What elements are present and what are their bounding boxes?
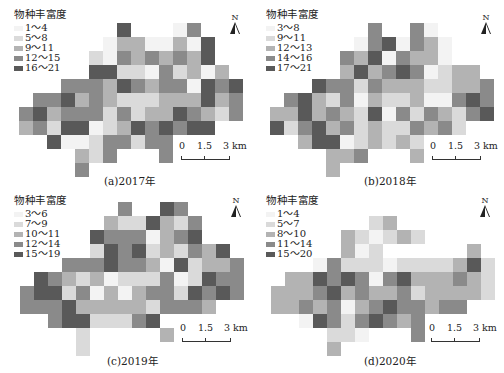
grid-cell xyxy=(117,51,131,65)
grid-cell xyxy=(34,272,48,286)
grid-cell xyxy=(438,121,452,135)
grid-cell xyxy=(354,79,368,93)
grid-cell xyxy=(467,272,481,286)
grid-cell xyxy=(62,272,76,286)
grid-cell xyxy=(481,272,495,286)
grid-cell xyxy=(48,286,62,300)
grid-cell xyxy=(187,107,201,121)
north-arrow-icon: N xyxy=(478,196,492,217)
grid-cell xyxy=(146,244,160,258)
grid-cell xyxy=(19,121,33,135)
caption: (d)2020年 xyxy=(364,353,416,368)
grid-cell xyxy=(75,121,89,135)
grid-cell xyxy=(131,51,145,65)
grid-cell xyxy=(118,202,132,216)
grid-cell xyxy=(397,300,411,314)
grid-cell xyxy=(313,286,327,300)
grid-cell xyxy=(76,258,90,272)
grid-cell xyxy=(438,93,452,107)
grid-cell xyxy=(368,135,382,149)
grid-cell xyxy=(174,202,188,216)
legend-title: 物种丰富度 xyxy=(266,6,319,21)
grid-cell xyxy=(117,135,131,149)
grid-cell xyxy=(326,163,340,177)
grid-cell xyxy=(355,314,369,328)
grid-cell xyxy=(145,107,159,121)
grid-cell xyxy=(397,258,411,272)
grid-cell xyxy=(382,79,396,93)
grid-cell xyxy=(354,107,368,121)
grid-cell xyxy=(411,230,425,244)
grid-cell xyxy=(145,37,159,51)
grid-cell xyxy=(368,37,382,51)
grid-cell xyxy=(131,79,145,93)
legend-swatch xyxy=(266,56,275,61)
grid-cell xyxy=(75,107,89,121)
grid-cell xyxy=(453,286,467,300)
grid-cell xyxy=(355,328,369,342)
grid-cell xyxy=(146,286,160,300)
grid-cell xyxy=(48,300,62,314)
scale-bar: 0 1.5 3 km xyxy=(429,140,489,166)
grid-cell xyxy=(216,258,230,272)
legend-swatch xyxy=(266,36,275,41)
grid-cell xyxy=(145,79,159,93)
grid-cell xyxy=(355,230,369,244)
grid-cell xyxy=(202,244,216,258)
grid-cell xyxy=(354,93,368,107)
grid-cell xyxy=(326,107,340,121)
map-panel-2019: 物种丰富度 3～6 7～9 10～11 12～14 15～19 N 0 1.5 … xyxy=(0,186,252,372)
grid-cell xyxy=(202,286,216,300)
grid-cell xyxy=(33,107,47,121)
grid-cell xyxy=(270,107,284,121)
grid-cell xyxy=(383,216,397,230)
grid-cell xyxy=(410,107,424,121)
grid-cell xyxy=(202,300,216,314)
grid-cell xyxy=(132,300,146,314)
grid-cell xyxy=(187,37,201,51)
grid-cell xyxy=(424,107,438,121)
grid-cell xyxy=(19,107,33,121)
legend-swatch xyxy=(266,46,275,51)
legend-swatch xyxy=(14,252,23,257)
grid-cell xyxy=(173,37,187,51)
grid-cell xyxy=(215,93,229,107)
grid-cell xyxy=(159,121,173,135)
grid-cell xyxy=(174,244,188,258)
grid-cell xyxy=(187,79,201,93)
grid-cell xyxy=(187,65,201,79)
grid-cell xyxy=(145,51,159,65)
grid-cell xyxy=(75,149,89,163)
grid-cell xyxy=(410,51,424,65)
grid-cell xyxy=(104,272,118,286)
map-panel-2020: 物种丰富度 1～4 5～7 8～10 11～14 15～20 N 0 1.5 3… xyxy=(252,186,504,372)
grid-cell xyxy=(230,286,244,300)
grid-cell xyxy=(340,51,354,65)
grid-cell xyxy=(48,314,62,328)
grid-cell xyxy=(201,79,215,93)
scale-bar: 0 1.5 3 km xyxy=(178,140,238,166)
grid-cell xyxy=(340,65,354,79)
grid-cell xyxy=(382,135,396,149)
grid-cell xyxy=(160,202,174,216)
grid-cell xyxy=(132,258,146,272)
grid-cell xyxy=(61,107,75,121)
grid-cell xyxy=(145,135,159,149)
grid-cell xyxy=(411,314,425,328)
grid-cell xyxy=(174,258,188,272)
grid-cell xyxy=(201,93,215,107)
grid-cell xyxy=(174,216,188,230)
grid-cell xyxy=(452,93,466,107)
grid-cell xyxy=(438,37,452,51)
grid-cell xyxy=(326,79,340,93)
legend: 物种丰富度 3～6 7～9 10～11 12～14 15～19 xyxy=(14,192,67,259)
grid-cell xyxy=(117,23,131,37)
grid-cell xyxy=(160,328,174,342)
grid-cell xyxy=(368,121,382,135)
grid-cell xyxy=(341,230,355,244)
grid-cell xyxy=(466,107,480,121)
grid-cell xyxy=(467,258,481,272)
scale-bar: 0 1.5 3 km xyxy=(179,322,239,348)
grid-cell xyxy=(174,272,188,286)
grid-cell xyxy=(201,107,215,121)
